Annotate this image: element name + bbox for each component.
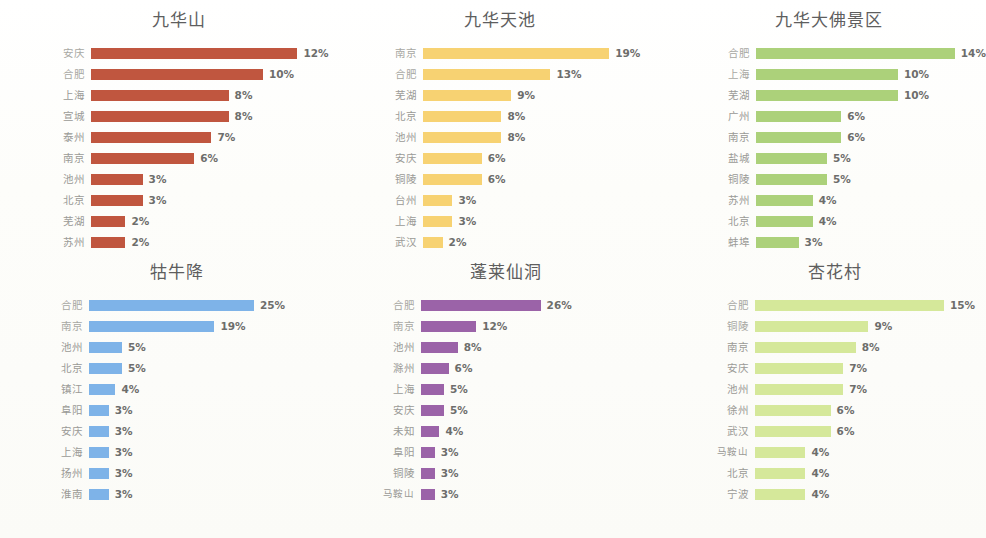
bar <box>755 489 805 500</box>
bar <box>421 384 444 395</box>
category-label: 铜陵 <box>705 174 756 185</box>
value-label: 15% <box>950 299 975 311</box>
bar-row: 泰州7% <box>40 127 330 147</box>
bar <box>89 342 122 353</box>
bar <box>421 426 439 437</box>
value-label: 9% <box>517 89 535 101</box>
chart-panel: 九华大佛景区合肥14%上海10%芜湖10%广州6%南京6%盐城5%铜陵5%苏州4… <box>660 0 986 252</box>
bar <box>91 153 194 164</box>
value-label: 19% <box>220 320 245 332</box>
category-label: 池州 <box>40 174 91 185</box>
bar-container: 3% <box>756 236 986 248</box>
bar <box>755 300 944 311</box>
bar-row: 蚌埠3% <box>705 232 986 252</box>
bar <box>421 447 435 458</box>
bar-row: 淮南3% <box>38 484 330 504</box>
bar-container: 2% <box>423 236 660 248</box>
chart-title: 九华天池 <box>330 0 660 31</box>
bar-container: 4% <box>755 446 986 458</box>
bar-container: 4% <box>755 467 986 479</box>
value-label: 25% <box>260 299 285 311</box>
bar-row: 上海3% <box>372 211 660 231</box>
value-label: 10% <box>904 68 929 80</box>
value-label: 2% <box>131 236 149 248</box>
bar <box>89 489 109 500</box>
bar-row: 芜湖2% <box>40 211 330 231</box>
chart-title: 杏花村 <box>660 252 986 283</box>
bar <box>421 300 541 311</box>
bar-container: 2% <box>91 215 330 227</box>
category-label: 苏州 <box>40 237 91 248</box>
value-label: 8% <box>862 341 880 353</box>
bar-row: 南京6% <box>705 127 986 147</box>
category-label: 上海 <box>705 69 756 80</box>
category-label: 芜湖 <box>705 90 756 101</box>
value-label: 7% <box>849 362 867 374</box>
bar-row: 安庆7% <box>704 358 986 378</box>
value-label: 7% <box>849 383 867 395</box>
bar <box>755 405 831 416</box>
bar-container: 3% <box>89 425 330 437</box>
category-label: 芜湖 <box>40 216 91 227</box>
category-label: 安庆 <box>372 153 423 164</box>
bar-container: 6% <box>421 362 660 374</box>
chart-title: 蓬莱仙洞 <box>330 252 660 283</box>
bar <box>423 111 501 122</box>
category-label: 淮南 <box>38 489 89 500</box>
value-label: 5% <box>450 383 468 395</box>
bar <box>755 363 843 374</box>
value-label: 4% <box>811 488 829 500</box>
value-label: 4% <box>819 215 837 227</box>
bar-container: 5% <box>89 362 330 374</box>
value-label: 3% <box>115 404 133 416</box>
bar-container: 6% <box>756 131 986 143</box>
bar-row: 北京4% <box>704 463 986 483</box>
value-label: 4% <box>819 194 837 206</box>
bar-container: 3% <box>89 467 330 479</box>
chart-grid: 九华山安庆12%合肥10%上海8%宣城8%泰州7%南京6%池州3%北京3%芜湖2… <box>0 0 986 538</box>
category-label: 合肥 <box>40 69 91 80</box>
bar-container: 3% <box>423 215 660 227</box>
category-label: 安庆 <box>370 405 421 416</box>
bar-container: 15% <box>755 299 986 311</box>
value-label: 6% <box>847 110 865 122</box>
bar-row: 南京6% <box>40 148 330 168</box>
bar-row: 宁波4% <box>704 484 986 504</box>
value-label: 5% <box>128 362 146 374</box>
bar <box>89 447 109 458</box>
bar-container: 9% <box>423 89 660 101</box>
bar <box>756 153 827 164</box>
bar-row: 池州7% <box>704 379 986 399</box>
bar-row: 安庆6% <box>372 148 660 168</box>
bar-container: 5% <box>421 383 660 395</box>
bar <box>423 153 482 164</box>
value-label: 6% <box>837 404 855 416</box>
value-label: 4% <box>445 425 463 437</box>
value-label: 5% <box>450 404 468 416</box>
category-label: 合肥 <box>705 48 756 59</box>
value-label: 6% <box>847 131 865 143</box>
value-label: 3% <box>458 194 476 206</box>
value-label: 8% <box>507 131 525 143</box>
bar-container: 6% <box>423 152 660 164</box>
bar-rows: 安庆12%合肥10%上海8%宣城8%泰州7%南京6%池州3%北京3%芜湖2%苏州… <box>0 43 330 252</box>
bar-container: 4% <box>755 488 986 500</box>
bar-row: 池州8% <box>370 337 660 357</box>
value-label: 3% <box>115 446 133 458</box>
value-label: 3% <box>115 467 133 479</box>
bar-container: 3% <box>421 488 660 500</box>
bar <box>91 132 211 143</box>
bar-row: 镇江4% <box>38 379 330 399</box>
bar-row: 阜阳3% <box>370 442 660 462</box>
chart-title: 九华大佛景区 <box>660 0 986 31</box>
category-label: 未知 <box>370 426 421 437</box>
bar-container: 5% <box>421 404 660 416</box>
value-label: 7% <box>217 131 235 143</box>
category-label: 北京 <box>704 468 755 479</box>
category-label: 台州 <box>372 195 423 206</box>
bar <box>756 90 898 101</box>
category-label: 广州 <box>705 111 756 122</box>
bar-row: 铜陵9% <box>704 316 986 336</box>
bar <box>423 174 482 185</box>
category-label: 北京 <box>372 111 423 122</box>
